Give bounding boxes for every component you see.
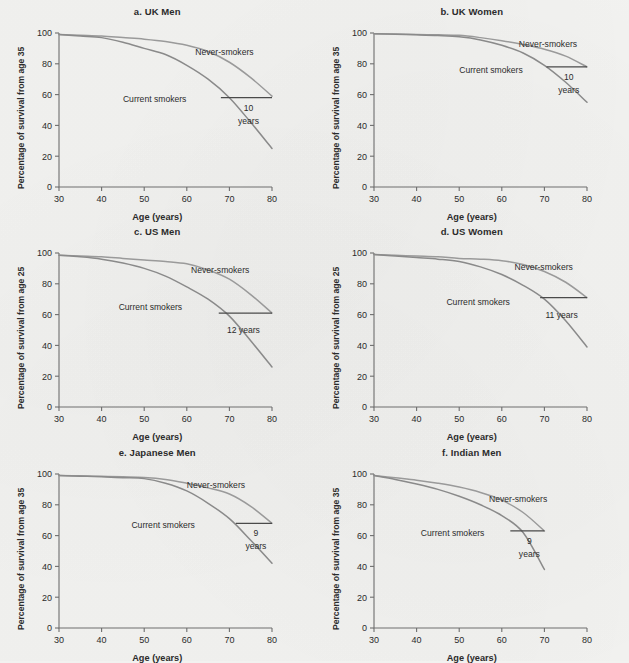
y-tick-label: 60 bbox=[356, 90, 366, 100]
x-tick-label: 80 bbox=[267, 194, 277, 204]
gap-years-label-d: 11 years bbox=[545, 310, 577, 320]
x-tick-label: 70 bbox=[224, 194, 234, 204]
panel-e: e. Japanese MenPercentage of survival fr… bbox=[0, 441, 315, 661]
gap-years-unit-e: years bbox=[245, 541, 266, 551]
y-tick-label: 80 bbox=[356, 59, 366, 69]
current-smokers-label-a: Current smokers bbox=[123, 94, 187, 104]
plot-area-b: 020406080100304050607080Never-smokersCur… bbox=[315, 0, 629, 220]
y-tick-label: 80 bbox=[356, 279, 366, 289]
x-tick-label: 80 bbox=[581, 194, 591, 204]
x-tick-label: 40 bbox=[411, 414, 421, 424]
x-tick-label: 60 bbox=[496, 194, 506, 204]
y-tick-label: 0 bbox=[47, 182, 52, 192]
axes-b bbox=[370, 33, 587, 191]
gap-years-number-e: 9 bbox=[254, 528, 259, 538]
x-tick-label: 30 bbox=[54, 414, 64, 424]
x-tick-label: 50 bbox=[454, 194, 464, 204]
y-tick-label: 0 bbox=[361, 182, 366, 192]
never-smokers-label-e: Never-smokers bbox=[187, 480, 245, 490]
x-tick-label: 80 bbox=[267, 635, 277, 645]
x-tick-label: 40 bbox=[411, 194, 421, 204]
y-tick-label: 20 bbox=[42, 152, 52, 162]
y-tick-label: 80 bbox=[42, 279, 52, 289]
panel-a: a. UK MenPercentage of survival from age… bbox=[0, 0, 315, 220]
x-tick-label: 60 bbox=[182, 635, 192, 645]
current-smokers-label-b: Current smokers bbox=[459, 65, 523, 75]
x-tick-label: 30 bbox=[368, 414, 378, 424]
y-tick-label: 20 bbox=[356, 592, 366, 602]
y-tick-label: 100 bbox=[37, 28, 52, 38]
x-tick-label: 30 bbox=[368, 635, 378, 645]
never-smokers-label-c: Never-smokers bbox=[191, 265, 249, 275]
gap-years-number-a: 10 bbox=[244, 103, 254, 113]
current-smokers-label-e: Current smokers bbox=[131, 520, 195, 530]
x-tick-label: 70 bbox=[539, 194, 549, 204]
panel-c: c. US MenPercentage of survival from age… bbox=[0, 220, 315, 440]
gap-years-label-c: 12 years bbox=[227, 325, 260, 335]
panel-d: d. US WomenPercentage of survival from a… bbox=[315, 220, 629, 440]
y-tick-label: 20 bbox=[42, 592, 52, 602]
x-tick-label: 40 bbox=[97, 635, 107, 645]
y-tick-label: 40 bbox=[356, 341, 366, 351]
never-smokers-label-d: Never-smokers bbox=[514, 262, 572, 272]
y-tick-label: 40 bbox=[42, 561, 52, 571]
y-tick-label: 60 bbox=[42, 310, 52, 320]
current-smokers-label-f: Current smokers bbox=[420, 527, 484, 537]
plot-area-d: 020406080100304050607080Never-smokersCur… bbox=[315, 220, 629, 440]
y-tick-label: 60 bbox=[356, 531, 366, 541]
y-tick-label: 40 bbox=[42, 341, 52, 351]
x-tick-label: 80 bbox=[581, 635, 591, 645]
x-tick-label: 70 bbox=[224, 414, 234, 424]
x-tick-label: 50 bbox=[454, 635, 464, 645]
y-tick-label: 0 bbox=[361, 403, 366, 413]
x-tick-label: 80 bbox=[267, 414, 277, 424]
y-tick-label: 40 bbox=[356, 121, 366, 131]
y-tick-label: 0 bbox=[47, 623, 52, 633]
gap-years-unit-a: years bbox=[238, 116, 259, 126]
y-tick-label: 20 bbox=[42, 372, 52, 382]
gap-years-unit-f: years bbox=[518, 549, 539, 559]
plot-area-a: 020406080100304050607080Never-smokersCur… bbox=[0, 0, 315, 220]
y-tick-label: 40 bbox=[42, 121, 52, 131]
y-tick-label: 100 bbox=[37, 249, 52, 259]
never-smokers-curve-a bbox=[59, 35, 272, 97]
y-tick-label: 80 bbox=[42, 500, 52, 510]
x-tick-label: 30 bbox=[54, 194, 64, 204]
gap-years-unit-b: years bbox=[558, 85, 579, 95]
y-tick-label: 100 bbox=[37, 469, 52, 479]
never-smokers-label-b: Never-smokers bbox=[518, 39, 576, 49]
plot-area-f: 020406080100304050607080Never-smokersCur… bbox=[315, 441, 629, 661]
y-tick-label: 0 bbox=[47, 403, 52, 413]
x-tick-label: 30 bbox=[54, 635, 64, 645]
y-tick-label: 100 bbox=[351, 28, 366, 38]
y-tick-label: 80 bbox=[356, 500, 366, 510]
x-tick-label: 60 bbox=[496, 414, 506, 424]
y-tick-label: 80 bbox=[42, 59, 52, 69]
y-tick-label: 60 bbox=[42, 531, 52, 541]
x-tick-label: 30 bbox=[368, 194, 378, 204]
panel-f: f. Indian MenPercentage of survival from… bbox=[315, 441, 629, 661]
current-smokers-label-d: Current smokers bbox=[446, 298, 510, 308]
x-tick-label: 50 bbox=[139, 414, 149, 424]
current-smokers-label-c: Current smokers bbox=[119, 302, 183, 312]
axes-e bbox=[55, 474, 272, 632]
y-tick-label: 20 bbox=[356, 372, 366, 382]
x-tick-label: 40 bbox=[411, 635, 421, 645]
plot-area-c: 020406080100304050607080Never-smokersCur… bbox=[0, 220, 315, 440]
x-tick-label: 80 bbox=[581, 414, 591, 424]
y-tick-label: 20 bbox=[356, 152, 366, 162]
x-tick-label: 40 bbox=[97, 194, 107, 204]
gap-years-number-b: 10 bbox=[563, 72, 573, 82]
axes-f bbox=[370, 474, 587, 632]
x-tick-label: 50 bbox=[454, 414, 464, 424]
y-tick-label: 100 bbox=[351, 249, 366, 259]
x-tick-label: 70 bbox=[539, 635, 549, 645]
y-tick-label: 60 bbox=[356, 310, 366, 320]
panel-b: b. UK WomenPercentage of survival from a… bbox=[315, 0, 629, 220]
x-tick-label: 70 bbox=[539, 414, 549, 424]
x-tick-label: 60 bbox=[496, 635, 506, 645]
plot-area-e: 020406080100304050607080Never-smokersCur… bbox=[0, 441, 315, 661]
y-tick-label: 40 bbox=[356, 561, 366, 571]
y-tick-label: 60 bbox=[42, 90, 52, 100]
